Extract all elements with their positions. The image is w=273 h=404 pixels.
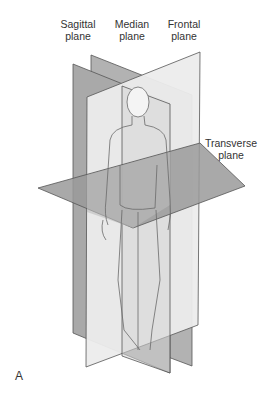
body-planes-diagram [0, 0, 273, 404]
median-plane-front [122, 86, 170, 373]
